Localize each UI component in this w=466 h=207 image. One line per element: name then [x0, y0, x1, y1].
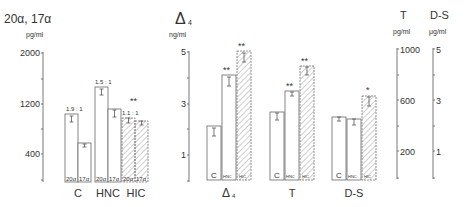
bar-label-t-c: C	[274, 171, 280, 180]
bar-label-hic-17a: 17α	[136, 176, 147, 182]
bar-label-t-hnc: HNC	[286, 174, 295, 179]
ds-axis: D-S μg/ml 5 3 1	[429, 9, 449, 179]
bar-delta4-hic	[237, 51, 251, 180]
sig-ds-hic: *	[366, 85, 370, 95]
group-label-hnc: HNC	[96, 187, 120, 199]
bar-t-hic	[300, 66, 314, 180]
bar-label-hic-20a: 20α	[123, 176, 134, 182]
bar-label-hnc-17a: 17α	[109, 176, 120, 182]
t-tick-200: 200	[400, 147, 415, 157]
bar-label-ds-hic: HIC	[364, 174, 371, 179]
bar-t-c	[270, 112, 284, 180]
t-unit-label: pg/ml	[393, 28, 411, 36]
ds-tick-5: 5	[436, 45, 441, 55]
bar-label-delta4-hic: HIC	[239, 174, 246, 179]
sig-t-hic: **	[301, 56, 309, 66]
bar-hnc-20a	[95, 87, 108, 182]
bar-label-hnc-20a: 20α	[96, 176, 107, 182]
ds-tick-3: 3	[436, 96, 441, 106]
bar-ds-hnc	[347, 119, 361, 180]
t-tick-600: 600	[400, 96, 415, 106]
bar-label-ds-hnc: HNC	[348, 174, 357, 179]
bar-label-ds-c: C	[336, 171, 342, 180]
chart-20a-17a: 20α, 17α pg/ml 2000 1200 400	[4, 12, 148, 199]
bar-delta4-hnc	[222, 75, 236, 180]
delta-tick-5: 5	[181, 47, 186, 57]
bar-hic-17a	[135, 121, 148, 182]
left-tick-400: 400	[25, 149, 40, 159]
significance-hic: **	[130, 96, 138, 106]
ds-tick-1: 1	[436, 147, 441, 157]
x-label-delta4-sub: 4	[232, 193, 236, 199]
bar-label-c-20a: 20α	[66, 176, 77, 182]
delta-tick-3: 3	[181, 99, 186, 109]
delta-title: Δ	[175, 10, 186, 27]
bar-hic-20a	[122, 118, 135, 182]
group-label-hic: HIC	[127, 187, 146, 199]
ratio-hnc: 1.5 : 1	[95, 79, 112, 85]
bar-c-20a	[65, 114, 78, 182]
sig-t-hnc: **	[286, 81, 294, 91]
bar-hnc-17a	[108, 109, 121, 182]
bar-label-delta4-c: C	[211, 171, 217, 180]
bar-label-delta4-hnc: HNC	[223, 174, 232, 179]
x-label-ds: D-S	[345, 187, 364, 199]
chart-ds-bars: * C HNC HIC D-S	[332, 85, 376, 199]
chart-delta4-axis: Δ 4 ng/ml 5 3 1	[169, 10, 192, 182]
t-axis-title: T	[400, 9, 407, 21]
left-tick-1200: 1200	[20, 99, 40, 109]
x-label-delta4: Δ	[222, 186, 230, 200]
bar-ds-hic	[362, 96, 376, 180]
chart-delta4-bars: ** ** C HNC HIC Δ 4	[207, 41, 251, 200]
left-unit-label: pg/ml	[26, 31, 44, 39]
delta-title-sub: 4	[188, 19, 192, 26]
left-tick-2000: 2000	[20, 48, 40, 58]
delta-tick-1: 1	[181, 150, 186, 160]
sig-delta4-hnc: **	[223, 65, 231, 75]
delta-unit-label: ng/ml	[169, 31, 187, 39]
left-chart-title: 20α, 17α	[4, 12, 51, 26]
ds-axis-title: D-S	[430, 9, 449, 21]
t-axis: T pg/ml 1000 600 200	[393, 9, 420, 179]
ratio-c: 1.9 : 1	[66, 106, 83, 112]
sig-delta4-hic: **	[238, 41, 246, 51]
bar-label-c-17a: 17α	[79, 176, 90, 182]
ds-unit-label: μg/ml	[429, 28, 447, 36]
ratio-hic: 1.1 : 1	[122, 110, 139, 116]
group-label-c: C	[74, 187, 82, 199]
t-tick-1000: 1000	[400, 45, 420, 55]
x-label-t: T	[289, 187, 296, 199]
hormone-bar-charts: 20α, 17α pg/ml 2000 1200 400	[0, 0, 466, 207]
chart-t-bars: ** ** C HNC HIC T	[270, 56, 314, 199]
bar-label-t-hic: HIC	[302, 174, 309, 179]
bar-t-hnc	[285, 91, 299, 180]
